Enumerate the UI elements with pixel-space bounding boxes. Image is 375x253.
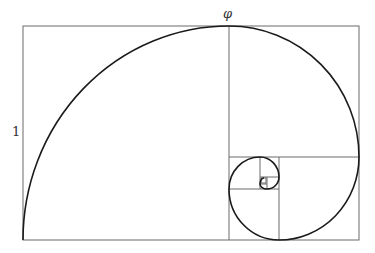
- golden-spiral-curve: [23, 26, 359, 240]
- one-label: 1: [12, 125, 20, 138]
- phi-label: φ: [223, 7, 232, 20]
- outer-rectangle: [23, 26, 359, 240]
- golden-spiral-diagram: [0, 0, 375, 253]
- square-grid: [23, 26, 359, 240]
